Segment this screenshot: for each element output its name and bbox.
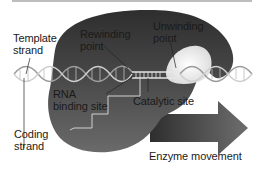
rna-binding-site-label: RNA binding site bbox=[53, 88, 107, 112]
rewinding-point-label: Rewinding point bbox=[80, 28, 130, 52]
template-strand-label: Template strand bbox=[13, 32, 57, 56]
coding-strand-label: Coding strand bbox=[14, 128, 48, 152]
transcription-diagram: Template strand Rewinding point Unwindin… bbox=[0, 0, 263, 173]
enzyme-movement-label: Enzyme movement bbox=[149, 150, 242, 162]
unwinding-point-label: Unwinding point bbox=[153, 20, 203, 44]
catalytic-site-label: Catalytic site bbox=[133, 95, 194, 107]
